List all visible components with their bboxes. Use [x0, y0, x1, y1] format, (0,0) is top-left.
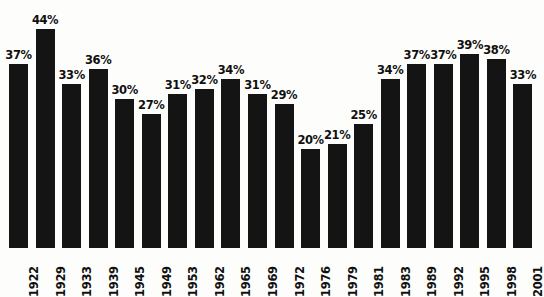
x-axis-tick-label: 1979: [344, 248, 363, 297]
x-axis-tick-label: 1922: [25, 248, 44, 297]
bar: [328, 144, 347, 248]
bar: [248, 94, 267, 248]
x-axis-tick-label: 1962: [211, 248, 230, 297]
x-axis-tick-label: 2001: [529, 248, 544, 297]
bar-group: 37%: [407, 0, 426, 248]
bar-group: 20%: [301, 0, 320, 248]
x-axis-tick-label: 1992: [450, 248, 469, 297]
bar-group: 34%: [221, 0, 240, 248]
x-axis-tick-label: 1989: [423, 248, 442, 297]
bar-group: 33%: [513, 0, 532, 248]
x-axis-tick-label: 1929: [52, 248, 71, 297]
x-axis-tick-label: 1972: [291, 248, 310, 297]
x-axis-tick-label: 1981: [370, 248, 389, 297]
x-axis: 1922192919331939194519491953196219651969…: [0, 248, 544, 297]
x-axis-tick-label: 1969: [264, 248, 283, 297]
x-axis-tick-label: 1933: [78, 248, 97, 297]
bar: [460, 54, 479, 248]
x-axis-tick-label: 1965: [237, 248, 256, 297]
bar-chart-figure: ......... 37%44%33%36%30%27%31%32%34%31%…: [0, 0, 544, 297]
bar: [195, 89, 214, 248]
x-axis-tick-label: 1976: [317, 248, 336, 297]
bar-group: 30%: [115, 0, 134, 248]
x-axis-tick-label: 1949: [158, 248, 177, 297]
bar-group: 32%: [195, 0, 214, 248]
bar-group: 31%: [168, 0, 187, 248]
bar: [487, 59, 506, 248]
x-axis-tick-label: 1998: [503, 248, 522, 297]
bar-group: 33%: [62, 0, 81, 248]
bar: [142, 114, 161, 248]
bar-group: 44%: [36, 0, 55, 248]
bar: [275, 104, 294, 248]
bar-group: 37%: [9, 0, 28, 248]
x-axis-tick-label: 1983: [397, 248, 416, 297]
bar: [381, 79, 400, 248]
bar-group: 29%: [275, 0, 294, 248]
bar: [407, 64, 426, 248]
bar: [115, 99, 134, 248]
bar: [221, 79, 240, 248]
bar-group: 36%: [89, 0, 108, 248]
bar: [9, 64, 28, 248]
bar: [301, 149, 320, 248]
x-axis-tick-label: 1939: [105, 248, 124, 297]
x-axis-tick-label: 1995: [476, 248, 495, 297]
x-axis-tick-label: 1945: [131, 248, 150, 297]
bar-group: 21%: [328, 0, 347, 248]
x-axis-tick-label: 1953: [184, 248, 203, 297]
bar: [36, 29, 55, 248]
bar-group: 34%: [381, 0, 400, 248]
bar: [434, 64, 453, 248]
bar: [513, 84, 532, 248]
bar-group: 31%: [248, 0, 267, 248]
bar: [168, 94, 187, 248]
bar: [354, 124, 373, 248]
bar: [62, 84, 81, 248]
bar-value-label: 33%: [500, 68, 544, 82]
bar-group: 25%: [354, 0, 373, 248]
plot-area: 37%44%33%36%30%27%31%32%34%31%29%20%21%2…: [0, 0, 544, 248]
bar-group: 27%: [142, 0, 161, 248]
bar-group: 39%: [460, 0, 479, 248]
bar-group: 38%: [487, 0, 506, 248]
